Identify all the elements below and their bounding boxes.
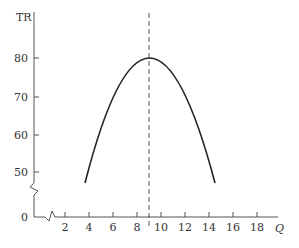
y-tick-label: 0 (21, 211, 28, 224)
x-tick-label: 10 (154, 221, 168, 234)
x-axis-title: Q (275, 222, 284, 235)
y-tick-label: 70 (14, 91, 28, 104)
x-tick-label: 14 (202, 221, 216, 234)
x-tick-label: 16 (226, 221, 240, 234)
x-ticks (65, 212, 257, 217)
y-ticks (34, 58, 39, 172)
tr-curve (85, 58, 215, 183)
y-tick-label: 60 (14, 129, 28, 142)
x-tick-label: 2 (62, 221, 69, 234)
x-axis-break-icon (45, 211, 55, 221)
x-tick-label: 4 (86, 221, 93, 234)
x-tick-label: 18 (250, 221, 264, 234)
y-tick-label: 50 (14, 166, 28, 179)
y-tick-label: 80 (14, 52, 28, 65)
y-axis-title: TR (16, 11, 32, 24)
x-tick-label: 6 (110, 221, 117, 234)
y-axis-break-icon (30, 183, 38, 195)
x-tick-label: 12 (178, 221, 192, 234)
x-tick-label: 8 (134, 221, 141, 234)
tr-chart: 80 70 60 50 0 2 4 6 8 10 12 14 16 18 TR … (0, 0, 299, 248)
